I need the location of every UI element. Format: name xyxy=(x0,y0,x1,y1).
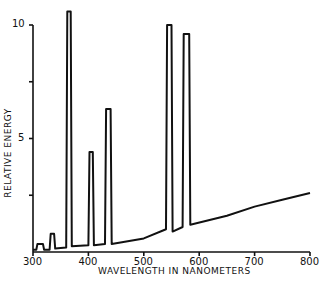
spectrum-line xyxy=(33,11,310,249)
x-axis-label: WAVELENGTH IN NANOMETERS xyxy=(98,266,251,276)
x-tick-label: 700 xyxy=(245,256,264,267)
x-tick-label: 600 xyxy=(189,256,208,267)
y-axis-label: RELATIVE ENERGY xyxy=(3,103,13,203)
x-tick-label: 300 xyxy=(23,256,42,267)
x-tick-label: 500 xyxy=(134,256,153,267)
y-tick-label: 5 xyxy=(18,132,24,143)
spectral-chart xyxy=(0,0,328,283)
y-tick-label: 10 xyxy=(12,18,25,29)
x-tick-label: 800 xyxy=(300,256,319,267)
x-tick-label: 400 xyxy=(78,256,97,267)
